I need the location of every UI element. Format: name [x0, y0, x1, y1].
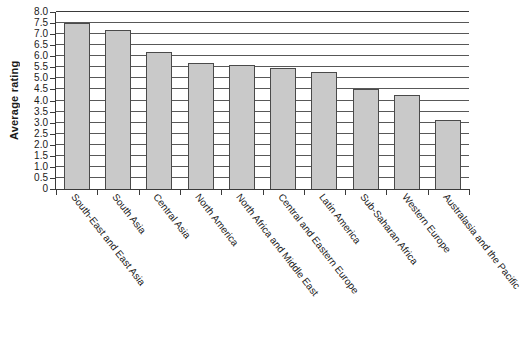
y-tick-label: 1.5: [34, 151, 48, 161]
y-tick-label: 6.5: [34, 40, 48, 50]
y-tick-mark: [50, 145, 56, 146]
bar-slot: [139, 12, 180, 189]
y-tick-mark: [50, 178, 56, 179]
y-tick-label: 6.0: [34, 51, 48, 61]
x-axis-label: Central and Eastern Europe: [276, 192, 360, 296]
y-tick-label: 0.5: [34, 173, 48, 183]
bar[interactable]: [435, 120, 461, 189]
y-tick-label: 3.0: [34, 118, 48, 128]
bar[interactable]: [270, 68, 296, 189]
y-tick-mark: [50, 189, 56, 190]
y-tick-label: 7.5: [34, 18, 48, 28]
bar-slot: [304, 12, 345, 189]
x-axis-labels: South-East and East AsiaSouth AsiaCentra…: [55, 192, 469, 332]
bar[interactable]: [311, 72, 337, 189]
y-tick-mark: [50, 123, 56, 124]
bar-slot: [97, 12, 138, 189]
x-axis-label: Latin America: [317, 192, 362, 246]
y-tick-mark: [50, 134, 56, 135]
y-tick-mark: [50, 56, 56, 57]
y-tick-mark: [50, 67, 56, 68]
bar-series: [56, 12, 469, 189]
bar-slot: [345, 12, 386, 189]
bar[interactable]: [146, 52, 172, 189]
y-tick-label: 7.0: [34, 29, 48, 39]
y-tick-label: 0: [42, 184, 48, 194]
bar[interactable]: [394, 95, 420, 189]
y-tick-mark: [50, 156, 56, 157]
x-axis-label: Australasia and the Pacific: [441, 192, 521, 291]
y-tick-mark: [50, 101, 56, 102]
y-tick-mark: [50, 23, 56, 24]
bar[interactable]: [229, 65, 255, 189]
y-tick-label: 2.5: [34, 129, 48, 139]
y-tick-mark: [50, 12, 56, 13]
bar[interactable]: [353, 89, 379, 189]
bar-slot: [221, 12, 262, 189]
x-axis-label: South-East and East Asia: [69, 192, 147, 288]
y-tick-mark: [50, 167, 56, 168]
y-axis-title: Average rating: [6, 20, 22, 180]
y-tick-mark: [50, 34, 56, 35]
y-tick-label: 2.0: [34, 140, 48, 150]
y-tick-mark: [50, 89, 56, 90]
bar-slot: [262, 12, 303, 189]
y-tick-label: 4.5: [34, 84, 48, 94]
x-axis-label: Central Asia: [151, 192, 192, 241]
bar-slot: [180, 12, 221, 189]
bar-slot: [386, 12, 427, 189]
x-axis-label: North Africa and Middle East: [234, 192, 320, 298]
bar[interactable]: [105, 30, 131, 189]
y-tick-mark: [50, 112, 56, 113]
y-tick-label: 3.5: [34, 107, 48, 117]
y-tick-label: 5.0: [34, 73, 48, 83]
bar[interactable]: [64, 23, 90, 189]
bar[interactable]: [188, 63, 214, 189]
y-tick-label: 1.0: [34, 162, 48, 172]
x-axis-label: South Asia: [110, 192, 147, 236]
y-tick-label: 5.5: [34, 62, 48, 72]
x-tick-mark: [469, 189, 470, 195]
y-tick-mark: [50, 45, 56, 46]
y-tick-mark: [50, 78, 56, 79]
plot-area: 00.51.01.52.02.53.03.54.04.55.05.56.06.5…: [55, 12, 469, 190]
y-tick-label: 4.0: [34, 96, 48, 106]
x-axis-label: North America: [193, 192, 240, 248]
bar-slot: [56, 12, 97, 189]
bar-slot: [428, 12, 469, 189]
y-tick-label: 8.0: [34, 7, 48, 17]
